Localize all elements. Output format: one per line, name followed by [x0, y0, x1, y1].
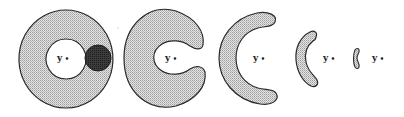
point-marker: [332, 57, 335, 60]
sliver-body: [354, 49, 360, 69]
crescent-body: [219, 12, 277, 104]
point-marker: [381, 57, 384, 60]
point-label: y: [371, 53, 378, 63]
point-marker: [174, 57, 177, 60]
point-marker: [262, 57, 265, 60]
thin-crescent-body: [296, 31, 318, 86]
dark-blob: [85, 45, 111, 71]
shrinking-shapes-figure: y y y y y: [0, 0, 404, 117]
point-label: y: [164, 53, 171, 63]
shape-4-thin-crescent: y: [296, 31, 334, 86]
shape-3-crescent: y: [219, 12, 277, 104]
shape-5-sliver: y: [354, 49, 384, 69]
point-label: y: [56, 53, 63, 63]
point-label: y: [252, 53, 259, 63]
point-label: y: [322, 53, 329, 63]
shape-1-annulus: y: [19, 10, 113, 108]
scan-speck: [117, 27, 118, 28]
shape-2-c-shape: y: [124, 9, 205, 107]
point-marker: [66, 57, 69, 60]
